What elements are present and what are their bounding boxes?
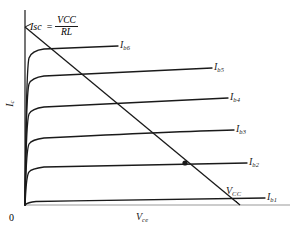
operating-point-dot: [182, 160, 187, 165]
curve-ib6: [25, 46, 118, 205]
origin-label: 0: [9, 212, 14, 223]
isc-symbol: Isc: [30, 21, 42, 32]
curve-label-ib3: Ib3: [236, 124, 246, 135]
curve-label-ib6: Ib6: [120, 40, 130, 51]
curve-ib5: [25, 68, 212, 205]
curve-ib1: [25, 198, 265, 205]
x-axis-label: Vce: [136, 212, 148, 223]
numerator-subscript: CC: [63, 15, 76, 25]
curve-label-ib5: Ib5: [214, 62, 224, 73]
dc-load-line: [25, 27, 240, 205]
curve-ib3: [25, 130, 234, 205]
isc-subscript: sc: [33, 21, 41, 32]
fraction-denominator: RL: [59, 28, 74, 38]
curve-label-ib2: Ib2: [249, 157, 259, 168]
transistor-load-line-figure: Isc = VCC RL Ib6 Ib5 Ib4 Ib3 Ib2 Ib1 VCC…: [0, 0, 296, 232]
vcc-over-rl-fraction: VCC RL: [55, 16, 78, 38]
y-axis-label: Ic: [5, 96, 16, 112]
curve-ib4: [25, 98, 228, 205]
equals-sign: =: [47, 21, 53, 32]
vcc-intercept-label: VCC: [226, 186, 241, 197]
denominator-subscript: L: [67, 27, 72, 37]
fraction-numerator: VCC: [55, 16, 78, 26]
isc-equation: Isc = VCC RL: [30, 16, 78, 38]
curve-label-ib4: Ib4: [230, 92, 240, 103]
curve-label-ib1: Ib1: [267, 192, 277, 203]
